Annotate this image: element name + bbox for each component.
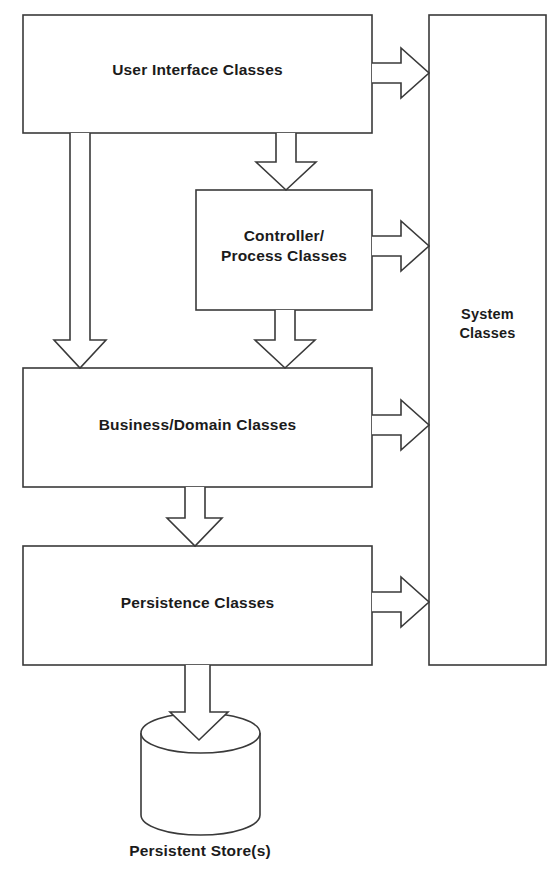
- node-controller-process-classes: [196, 190, 372, 310]
- arrow-controller-to-system: [372, 221, 429, 271]
- arrow-business-to-persistence: [167, 487, 222, 546]
- arrow-business-to-system: [372, 400, 429, 450]
- arrow-ui-to-controller: [256, 133, 316, 190]
- arrow-controller-to-business: [255, 310, 315, 368]
- arrow-persistence-to-system: [372, 577, 429, 627]
- node-persistence-classes: [23, 546, 372, 665]
- node-business-domain-classes: [23, 368, 372, 487]
- node-system-classes: [429, 15, 546, 665]
- diagram-canvas: [0, 0, 557, 869]
- node-user-interface-classes: [23, 15, 372, 133]
- diagram-shapes: [23, 15, 546, 835]
- class-architecture-diagram: User Interface Classes Controller/ Proce…: [0, 0, 557, 869]
- arrow-ui-to-business: [54, 133, 106, 368]
- arrow-ui-to-system: [372, 48, 429, 98]
